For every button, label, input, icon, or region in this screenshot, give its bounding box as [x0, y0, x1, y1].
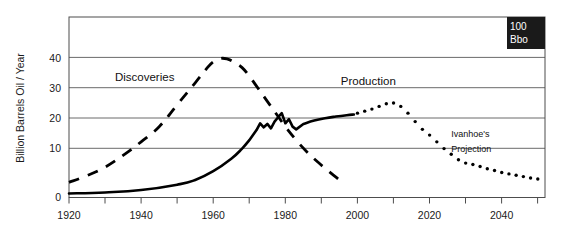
y-tick-label: 0 — [55, 191, 61, 203]
y-axis-title: Billion Barrels Oil / Year — [14, 53, 26, 163]
data-point — [507, 172, 510, 175]
data-point — [493, 169, 496, 172]
oil-discoveries-production-chart: Billion Barrels Oil / Year 0 10 20 30 40 — [0, 0, 571, 241]
data-point — [370, 107, 373, 110]
ivanhoes-projection-label-line2: Projection — [451, 144, 491, 154]
data-point — [421, 128, 424, 131]
data-point — [500, 171, 503, 174]
data-point — [399, 105, 402, 108]
production-label: Production — [341, 75, 396, 87]
total-resource-badge: 100 Bbo — [507, 17, 545, 49]
data-point — [464, 161, 467, 164]
x-tick-label: 2020 — [418, 209, 442, 221]
data-point — [363, 109, 366, 112]
ivanhoes-projection-label-line1: Ivanhoe's — [451, 129, 490, 139]
data-point — [428, 133, 431, 136]
discoveries-label: Discoveries — [115, 71, 175, 83]
x-tick-label: 2000 — [346, 209, 370, 221]
data-point — [385, 102, 388, 105]
x-tickmarks — [69, 198, 538, 204]
x-tick-labels: 1920 1940 1960 1980 2000 2020 2040 — [57, 209, 513, 221]
data-point — [536, 177, 539, 180]
series-discoveries — [69, 58, 339, 182]
x-tick-label: 1960 — [202, 209, 226, 221]
data-point — [522, 175, 525, 178]
data-point — [514, 174, 517, 177]
y-tick-label: 40 — [49, 52, 61, 64]
data-point — [356, 111, 359, 114]
badge-unit: Bbo — [510, 34, 528, 45]
badge-value: 100 — [510, 21, 527, 32]
data-point — [413, 120, 416, 123]
y-tick-label: 20 — [49, 112, 61, 124]
x-tick-label: 1920 — [57, 209, 81, 221]
series-production — [69, 113, 354, 193]
data-point — [478, 165, 481, 168]
y-tick-label: 10 — [49, 142, 61, 154]
data-point — [442, 147, 445, 150]
data-point — [457, 158, 460, 161]
data-point — [529, 176, 532, 179]
plot-frame — [69, 17, 545, 198]
data-point — [392, 101, 395, 104]
chart-container: Billion Barrels Oil / Year 0 10 20 30 40 — [0, 0, 571, 241]
x-tick-label: 1940 — [129, 209, 153, 221]
x-tick-label: 1980 — [274, 209, 298, 221]
x-tick-label: 2040 — [490, 209, 514, 221]
y-tick-label: 30 — [49, 82, 61, 94]
data-point — [471, 163, 474, 166]
series-ivanhoes-projection-dots — [356, 101, 540, 180]
data-point — [486, 167, 489, 170]
data-point — [377, 105, 380, 108]
y-tick-labels: 0 10 20 30 40 — [49, 52, 61, 203]
data-point — [406, 111, 409, 114]
data-point — [435, 140, 438, 143]
